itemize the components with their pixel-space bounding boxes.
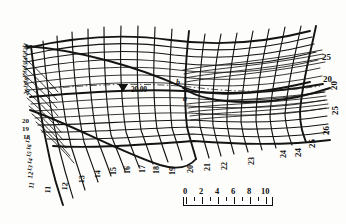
figure-canvas: .t { fill:none; stroke:#141414; stroke-w… bbox=[0, 0, 346, 224]
bottom-axis-label-15: 15 bbox=[110, 167, 118, 175]
left-lower-label-19: 19 bbox=[22, 126, 29, 133]
bottom-axis-label-11: 11 bbox=[44, 185, 53, 193]
point-label-b: b bbox=[176, 79, 180, 87]
bottom-axis-label-23: 23 bbox=[248, 157, 256, 165]
bottom-axis-label-19: 19 bbox=[169, 167, 177, 175]
scale-bar-ruler bbox=[183, 197, 273, 206]
left-lower-label-12: 12 bbox=[27, 171, 35, 179]
bottom-axis-label-12: 12 bbox=[61, 182, 70, 191]
scale-bar-numbers: 0 2 4 6 8 10 bbox=[183, 186, 273, 197]
bottom-axis-label-20: 20 bbox=[187, 165, 195, 173]
right-axis-label-24: 24 bbox=[294, 148, 303, 157]
bottom-axis-label-17: 17 bbox=[139, 165, 147, 173]
scale-bar: 0 2 4 6 8 10 bbox=[183, 186, 273, 206]
right-axis-label-25-upper: 25 bbox=[322, 53, 331, 62]
scale-tick-6: 6 bbox=[231, 186, 235, 196]
scale-tick-2: 2 bbox=[199, 186, 203, 196]
bottom-axis-label-14: 14 bbox=[94, 170, 102, 178]
left-lower-label-11: 11 bbox=[28, 182, 36, 190]
bottom-axis-label-22: 22 bbox=[221, 162, 229, 170]
gridlines-j-family bbox=[26, 31, 330, 147]
left-lower-label-20: 20 bbox=[22, 118, 29, 125]
right-axis-label-26: 26 bbox=[322, 126, 331, 135]
bottom-axis-label-13: 13 bbox=[78, 175, 86, 183]
point-label-a: a bbox=[183, 95, 187, 103]
scale-tick-0: 0 bbox=[183, 186, 187, 196]
bottom-axis-label-16: 16 bbox=[124, 166, 132, 174]
bottom-axis-label-21: 21 bbox=[204, 163, 212, 171]
right-axis-label-20-lower: 20 bbox=[330, 81, 339, 90]
bottom-axis-label-24: 24 bbox=[280, 150, 288, 158]
scale-tick-4: 4 bbox=[215, 186, 219, 196]
water-level-label: 20.00 bbox=[131, 85, 147, 94]
right-axis-label-25-lower: 25 bbox=[308, 139, 317, 148]
scale-tick-10: 10 bbox=[261, 186, 270, 196]
right-axis-label-25-mid: 25 bbox=[331, 106, 340, 115]
bottom-axis-label-18: 18 bbox=[153, 166, 161, 174]
scale-tick-8: 8 bbox=[247, 186, 251, 196]
water-level-triangle-icon bbox=[118, 84, 128, 92]
